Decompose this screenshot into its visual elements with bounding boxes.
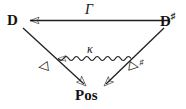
commutative-diagram: D D♯ Pos Γ κ ◁ ▷♯	[0, 0, 186, 109]
edge-label-kappa: κ	[87, 43, 93, 55]
edge-label-gamma-text: Γ	[85, 2, 93, 17]
edge-label-triangle-right: ▷♯	[128, 58, 144, 73]
edge-label-triangle-left-text: ◁	[37, 57, 49, 73]
node-d-sharp-base: D	[160, 13, 171, 29]
node-d-sharp: D♯	[160, 13, 175, 29]
edge-label-triangle-left: ◁	[37, 58, 49, 72]
edge-label-kappa-text: κ	[87, 42, 93, 56]
node-d: D	[7, 13, 18, 28]
node-pos-label: Pos	[75, 87, 98, 103]
node-d-sharp-superscript: ♯	[171, 11, 176, 21]
edge-kappa-squiggly-arrow	[58, 56, 131, 62]
edge-gamma-arrow	[30, 17, 170, 24]
node-d-label: D	[7, 12, 18, 28]
edge-label-gamma: Γ	[85, 3, 93, 17]
node-pos: Pos	[75, 88, 98, 103]
